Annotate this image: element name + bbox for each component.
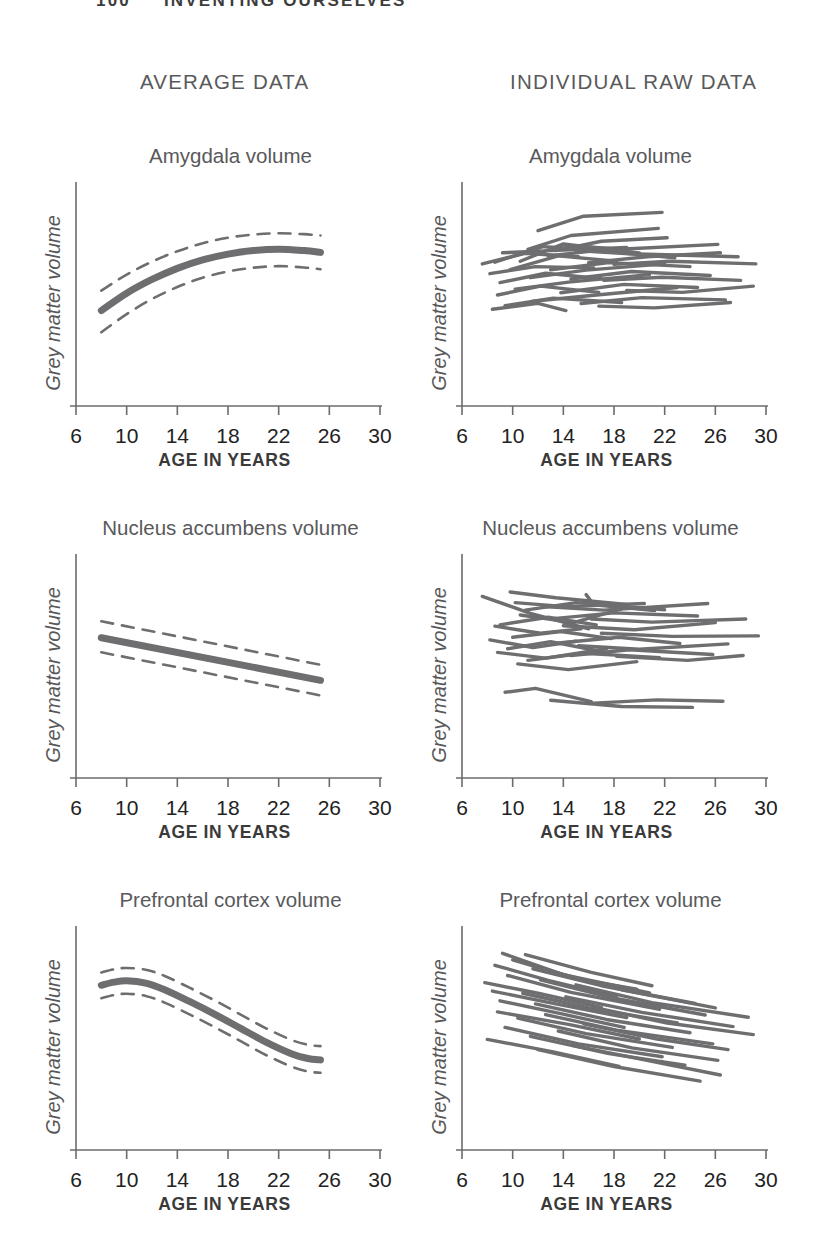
participant-trajectory-line bbox=[604, 277, 741, 280]
plot-area: Grey matter volume bbox=[68, 920, 386, 1168]
x-tick-label: 22 bbox=[267, 424, 290, 448]
x-tick-label: 10 bbox=[501, 424, 524, 448]
y-axis-label: Grey matter volume bbox=[428, 942, 454, 1152]
mean-fit-line bbox=[101, 249, 320, 310]
x-tick-label: 30 bbox=[754, 1168, 777, 1192]
x-axis-title: AGE IN YEARS bbox=[22, 822, 417, 843]
chart-svg bbox=[68, 920, 386, 1168]
x-tick-label: 10 bbox=[501, 1168, 524, 1192]
x-tick-label: 14 bbox=[166, 1168, 189, 1192]
chart-svg bbox=[454, 920, 772, 1168]
book-title: INVENTING OURSELVES bbox=[164, 0, 407, 10]
x-tick-label: 26 bbox=[318, 796, 341, 820]
x-tick-label: 18 bbox=[602, 796, 625, 820]
panel-title: Nucleus accumbens volume bbox=[22, 516, 423, 540]
x-tick-label: 10 bbox=[501, 796, 524, 820]
chart-svg bbox=[454, 176, 772, 424]
x-tick-label: 18 bbox=[216, 1168, 239, 1192]
x-tick-label: 26 bbox=[704, 424, 727, 448]
plot-area: Grey matter volume bbox=[68, 548, 386, 796]
y-axis-label: Grey matter volume bbox=[42, 570, 68, 780]
panel-accumbens-average: Nucleus accumbens volume Grey matter vol… bbox=[22, 504, 407, 876]
participant-trajectory-line bbox=[558, 637, 680, 643]
x-tick-label: 14 bbox=[166, 796, 189, 820]
column-header-average-data: AVERAGE DATA bbox=[140, 70, 309, 94]
x-tick-label: 22 bbox=[653, 796, 676, 820]
x-tick-label: 6 bbox=[456, 796, 468, 820]
chart-svg bbox=[454, 548, 772, 796]
participant-trajectory-line bbox=[589, 700, 723, 704]
mean-fit-line bbox=[101, 981, 320, 1060]
x-axis-title: AGE IN YEARS bbox=[22, 450, 417, 471]
x-tick-label: 18 bbox=[602, 424, 625, 448]
panel-amygdala-individual: Amygdala volume Grey matter volume 61014… bbox=[408, 132, 793, 504]
x-tick-label: 30 bbox=[754, 796, 777, 820]
participant-trajectory-line bbox=[581, 298, 725, 304]
plot-area: Grey matter volume bbox=[68, 176, 386, 424]
panel-title: Amygdala volume bbox=[408, 144, 803, 168]
x-tick-label: 26 bbox=[704, 796, 727, 820]
panel-title: Prefrontal cortex volume bbox=[22, 888, 423, 912]
x-tick-labels: 6101418222630 bbox=[454, 1168, 772, 1194]
x-tick-label: 22 bbox=[653, 424, 676, 448]
y-axis-label: Grey matter volume bbox=[42, 198, 68, 408]
x-tick-label: 22 bbox=[653, 1168, 676, 1192]
panel-prefrontal-average: Prefrontal cortex volume Grey matter vol… bbox=[22, 876, 407, 1248]
x-tick-label: 14 bbox=[552, 796, 575, 820]
x-tick-label: 18 bbox=[216, 796, 239, 820]
x-tick-label: 26 bbox=[704, 1168, 727, 1192]
x-axis-title: AGE IN YEARS bbox=[408, 822, 799, 843]
x-tick-labels: 6101418222630 bbox=[68, 796, 386, 822]
x-tick-label: 30 bbox=[368, 796, 391, 820]
participant-trajectory-line bbox=[505, 688, 591, 701]
running-head: 100 INVENTING OURSELVES bbox=[96, 0, 736, 13]
x-axis-title: AGE IN YEARS bbox=[408, 1194, 799, 1215]
confidence-bound-line bbox=[101, 994, 320, 1073]
y-axis-label: Grey matter volume bbox=[42, 942, 68, 1152]
participant-trajectory-line bbox=[614, 261, 756, 264]
x-tick-label: 26 bbox=[318, 424, 341, 448]
x-tick-label: 18 bbox=[216, 424, 239, 448]
participant-trajectory-line bbox=[492, 303, 565, 310]
y-axis-label: Grey matter volume bbox=[428, 198, 454, 408]
plot-area: Grey matter volume bbox=[454, 920, 772, 1168]
x-tick-label: 6 bbox=[456, 1168, 468, 1192]
x-axis-title: AGE IN YEARS bbox=[22, 1194, 417, 1215]
x-tick-label: 22 bbox=[267, 796, 290, 820]
plot-area: Grey matter volume bbox=[454, 176, 772, 424]
confidence-bound-line bbox=[101, 266, 320, 332]
participant-trajectory-line bbox=[591, 619, 746, 622]
x-tick-label: 10 bbox=[115, 424, 138, 448]
participant-trajectory-line bbox=[500, 617, 596, 625]
x-tick-label: 6 bbox=[70, 1168, 82, 1192]
confidence-bound-line bbox=[101, 233, 320, 290]
x-tick-label: 6 bbox=[456, 424, 468, 448]
x-axis-title: AGE IN YEARS bbox=[408, 450, 799, 471]
x-tick-label: 30 bbox=[368, 424, 391, 448]
x-tick-label: 30 bbox=[368, 1168, 391, 1192]
x-tick-labels: 6101418222630 bbox=[68, 1168, 386, 1194]
x-tick-label: 10 bbox=[115, 1168, 138, 1192]
x-tick-label: 14 bbox=[552, 1168, 575, 1192]
x-tick-label: 26 bbox=[318, 1168, 341, 1192]
x-tick-labels: 6101418222630 bbox=[454, 796, 772, 822]
y-axis-label: Grey matter volume bbox=[428, 570, 454, 780]
participant-trajectory-line bbox=[617, 655, 744, 660]
panel-title: Nucleus accumbens volume bbox=[408, 516, 803, 540]
panel-accumbens-individual: Nucleus accumbens volume Grey matter vol… bbox=[408, 504, 793, 876]
chart-svg bbox=[68, 176, 386, 424]
plot-area: Grey matter volume bbox=[454, 548, 772, 796]
x-tick-label: 22 bbox=[267, 1168, 290, 1192]
x-tick-label: 10 bbox=[115, 796, 138, 820]
panel-amygdala-average: Amygdala volume Grey matter volume 61014… bbox=[22, 132, 407, 504]
panel-title: Prefrontal cortex volume bbox=[408, 888, 803, 912]
x-tick-label: 30 bbox=[754, 424, 777, 448]
page-folio: 100 bbox=[96, 0, 131, 10]
x-tick-label: 14 bbox=[166, 424, 189, 448]
x-tick-labels: 6101418222630 bbox=[68, 424, 386, 450]
panel-prefrontal-individual: Prefrontal cortex volume Grey matter vol… bbox=[408, 876, 793, 1248]
column-header-individual-raw-data: INDIVIDUAL RAW DATA bbox=[510, 70, 757, 94]
chart-svg bbox=[68, 548, 386, 796]
panel-title: Amygdala volume bbox=[22, 144, 423, 168]
participant-trajectory-line bbox=[518, 662, 637, 670]
